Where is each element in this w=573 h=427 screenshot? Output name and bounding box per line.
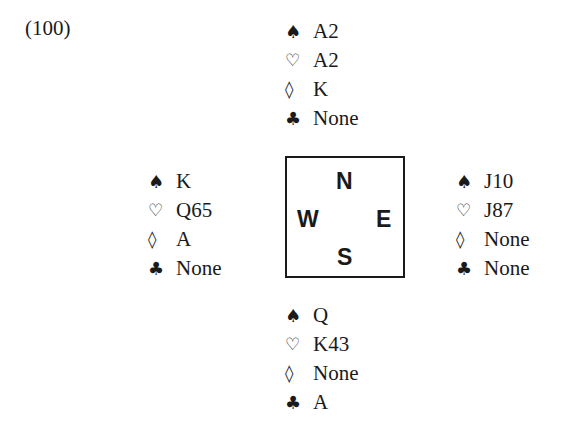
- south-diamonds: None: [313, 359, 359, 388]
- west-hearts-row: ♡Q65: [148, 196, 222, 225]
- north-hand: ♠A2 ♡A2 ◊K ♣None: [285, 17, 359, 133]
- north-hearts-row: ♡A2: [285, 46, 359, 75]
- west-spades-row: ♠K: [148, 167, 222, 196]
- heart-icon: ♡: [148, 196, 176, 225]
- south-clubs-row: ♣A: [285, 388, 359, 417]
- compass-north: N: [336, 168, 353, 195]
- south-hearts: K43: [313, 330, 349, 359]
- spade-icon: ♠: [285, 17, 313, 46]
- east-clubs-row: ♣None: [456, 254, 530, 283]
- east-hearts-row: ♡J87: [456, 196, 530, 225]
- east-diamonds: None: [484, 225, 530, 254]
- south-spades: Q: [313, 301, 328, 330]
- east-hand: ♠J10 ♡J87 ◊None ♣None: [456, 167, 530, 283]
- heart-icon: ♡: [285, 330, 313, 359]
- spade-icon: ♠: [456, 167, 484, 196]
- compass-east: E: [376, 206, 391, 233]
- compass-box: N W E S: [285, 156, 405, 278]
- compass-west: W: [297, 206, 319, 233]
- east-hearts: J87: [484, 196, 513, 225]
- south-diamonds-row: ◊None: [285, 359, 359, 388]
- north-clubs-row: ♣None: [285, 104, 359, 133]
- diamond-icon: ◊: [285, 359, 313, 388]
- club-icon: ♣: [456, 254, 484, 283]
- south-hearts-row: ♡K43: [285, 330, 359, 359]
- east-diamonds-row: ◊None: [456, 225, 530, 254]
- heart-icon: ♡: [456, 196, 484, 225]
- club-icon: ♣: [148, 254, 176, 283]
- north-spades-row: ♠A2: [285, 17, 359, 46]
- north-spades: A2: [313, 17, 339, 46]
- spade-icon: ♠: [285, 301, 313, 330]
- diamond-icon: ◊: [456, 225, 484, 254]
- diamond-icon: ◊: [148, 225, 176, 254]
- east-spades-row: ♠J10: [456, 167, 530, 196]
- west-hand: ♠K ♡Q65 ◊A ♣None: [148, 167, 222, 283]
- club-icon: ♣: [285, 388, 313, 417]
- compass-south: S: [337, 244, 352, 271]
- club-icon: ♣: [285, 104, 313, 133]
- south-hand: ♠Q ♡K43 ◊None ♣A: [285, 301, 359, 417]
- east-clubs: None: [484, 254, 530, 283]
- spade-icon: ♠: [148, 167, 176, 196]
- problem-number: (100): [25, 16, 71, 41]
- west-clubs-row: ♣None: [148, 254, 222, 283]
- west-diamonds: A: [176, 225, 191, 254]
- heart-icon: ♡: [285, 46, 313, 75]
- east-spades: J10: [484, 167, 513, 196]
- west-hearts: Q65: [176, 196, 212, 225]
- north-clubs: None: [313, 104, 359, 133]
- west-diamonds-row: ◊A: [148, 225, 222, 254]
- diamond-icon: ◊: [285, 75, 313, 104]
- north-hearts: A2: [313, 46, 339, 75]
- north-diamonds: K: [313, 75, 328, 104]
- west-clubs: None: [176, 254, 222, 283]
- north-diamonds-row: ◊K: [285, 75, 359, 104]
- west-spades: K: [176, 167, 191, 196]
- south-spades-row: ♠Q: [285, 301, 359, 330]
- south-clubs: A: [313, 388, 328, 417]
